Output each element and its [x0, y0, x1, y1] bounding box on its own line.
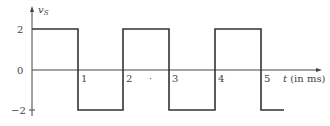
x-tick-label-5: 5: [264, 73, 270, 84]
dot-marker: ·: [149, 73, 152, 84]
x-tick-label-4: 4: [218, 73, 224, 84]
y-tick-label-neg2: −2: [11, 105, 26, 116]
x-axis-arrow-icon: [316, 68, 322, 72]
x-tick-label-3: 3: [172, 73, 178, 84]
x-tick-label-1: 1: [81, 73, 87, 84]
y-axis-label: vS: [38, 4, 49, 17]
y-tick-label-0: 0: [17, 65, 23, 76]
x-tick-label-2: 2: [126, 73, 132, 84]
y-axis-arrow-icon: [30, 6, 34, 12]
x-axis-label: t (in ms): [283, 73, 326, 84]
square-wave-diagram: vS 2 0 −2 1 2 · 3 4 5 t (in ms): [0, 0, 330, 126]
y-tick-label-2: 2: [17, 24, 23, 35]
